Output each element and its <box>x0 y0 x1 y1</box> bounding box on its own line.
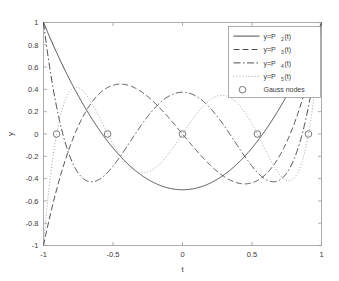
y-tick-label: -0.8 <box>26 219 39 228</box>
legend-label-prefix: y=P <box>264 33 277 41</box>
x-tick-label: 1 <box>319 250 323 259</box>
legend-label-suffix: (t) <box>285 33 292 41</box>
legend-label-prefix: y=P <box>264 73 277 81</box>
y-tick-label: 0.6 <box>28 63 38 72</box>
y-tick-label: -0.2 <box>26 152 39 161</box>
x-tick-label: -1 <box>40 250 47 259</box>
y-tick-label: 0.4 <box>28 85 38 94</box>
y-tick-label: -0.4 <box>26 174 39 183</box>
legendre-polynomial-chart: -1-0.500.51 -1-0.8-0.6-0.4-0.200.20.40.6… <box>0 0 339 281</box>
y-tick-label: 0 <box>34 130 38 139</box>
figure-container: -1-0.500.51 -1-0.8-0.6-0.4-0.200.20.40.6… <box>0 0 339 281</box>
y-tick-label: -0.6 <box>26 197 39 206</box>
legend-label-prefix: y=P <box>264 60 277 68</box>
x-tick-label: 0.5 <box>247 250 257 259</box>
legend-label-suffix: (t) <box>285 46 292 54</box>
y-tick-label: -1 <box>32 241 39 250</box>
legend-label-suffix: (t) <box>285 73 292 81</box>
y-axis-label: y <box>6 132 15 136</box>
y-tick-label: 1 <box>34 18 38 27</box>
y-tick-label: 0.8 <box>28 41 38 50</box>
x-tick-label: -0.5 <box>107 250 120 259</box>
legend-label-suffix: (t) <box>285 60 292 68</box>
y-tick-label: 0.2 <box>28 107 38 116</box>
x-tick-label: 0 <box>180 250 184 259</box>
legend-label-prefix: y=P <box>264 46 277 54</box>
chart-legend[interactable]: y=P2(t)y=P3(t)y=P4(t)y=P5(t)Gauss nodes <box>229 27 321 98</box>
legend-label-gauss-nodes: Gauss nodes <box>264 86 306 93</box>
